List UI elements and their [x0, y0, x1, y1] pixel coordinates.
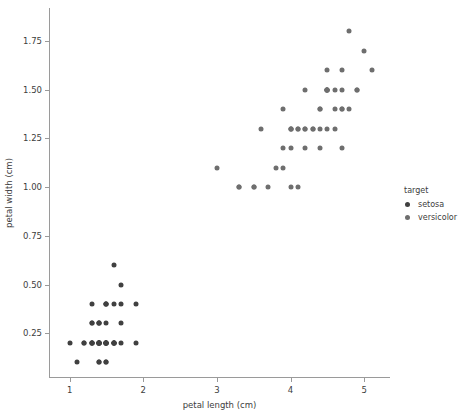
y-tick-label: 0.50: [23, 280, 42, 290]
x-tick-label: 5: [362, 385, 367, 395]
data-point-versicolor: [369, 68, 374, 73]
y-tick-label: 1.25: [23, 133, 42, 143]
x-tick-mark: [70, 378, 71, 382]
x-tick-mark: [217, 378, 218, 382]
legend-item-versicolor[interactable]: versicolor: [404, 212, 457, 223]
x-axis-spine: [49, 377, 390, 378]
x-tick-mark: [143, 378, 144, 382]
data-point-versicolor: [251, 185, 256, 190]
data-point-setosa: [74, 360, 79, 365]
y-tick-label: 0.75: [23, 231, 42, 241]
data-point-versicolor: [288, 126, 293, 131]
data-point-versicolor: [273, 165, 278, 170]
plot-area: 0.250.500.751.001.251.501.75 12345 petal…: [49, 8, 390, 378]
y-tick-mark: [45, 333, 49, 334]
y-tick-mark: [45, 41, 49, 42]
data-point-versicolor: [266, 185, 271, 190]
x-tick-label: 2: [141, 385, 146, 395]
y-tick-label: 0.25: [23, 328, 42, 338]
data-point-versicolor: [325, 126, 330, 131]
data-point-setosa: [104, 321, 109, 326]
data-point-setosa: [133, 340, 138, 345]
data-point-versicolor: [318, 146, 323, 151]
y-tick-label: 1.50: [23, 85, 42, 95]
data-point-setosa: [104, 302, 109, 307]
data-point-versicolor: [237, 185, 242, 190]
x-tick-label: 3: [214, 385, 219, 395]
data-point-versicolor: [318, 126, 323, 131]
legend-entries: setosaversicolor: [404, 199, 457, 223]
data-point-setosa: [89, 302, 94, 307]
y-tick-label: 1.75: [23, 36, 42, 46]
data-point-versicolor: [288, 185, 293, 190]
data-point-versicolor: [340, 146, 345, 151]
data-point-versicolor: [325, 87, 330, 92]
y-tick-label: 1.00: [23, 182, 42, 192]
legend-marker-icon: [405, 215, 410, 220]
y-tick-mark: [45, 285, 49, 286]
data-point-versicolor: [281, 146, 286, 151]
legend-item-setosa[interactable]: setosa: [404, 199, 457, 210]
data-point-versicolor: [303, 87, 308, 92]
data-point-versicolor: [310, 126, 315, 131]
data-point-versicolor: [303, 126, 308, 131]
data-point-versicolor: [347, 107, 352, 112]
data-point-setosa: [111, 302, 116, 307]
x-tick-label: 1: [67, 385, 72, 395]
data-point-versicolor: [281, 107, 286, 112]
data-point-versicolor: [354, 87, 359, 92]
data-point-versicolor: [295, 126, 300, 131]
data-point-setosa: [82, 340, 87, 345]
data-point-versicolor: [340, 87, 345, 92]
legend-title: target: [404, 186, 457, 195]
y-axis-label: petal width (cm): [4, 158, 14, 228]
data-point-setosa: [119, 282, 124, 287]
data-point-setosa: [89, 340, 94, 345]
data-point-setosa: [104, 340, 109, 345]
data-point-setosa: [119, 340, 124, 345]
x-tick-label: 4: [288, 385, 293, 395]
y-tick-mark: [45, 90, 49, 91]
data-point-setosa: [67, 340, 72, 345]
data-point-versicolor: [295, 185, 300, 190]
data-point-setosa: [111, 263, 116, 268]
data-point-setosa: [111, 340, 116, 345]
data-point-versicolor: [362, 48, 367, 53]
data-point-setosa: [104, 360, 109, 365]
data-point-setosa: [97, 360, 102, 365]
data-point-versicolor: [340, 107, 345, 112]
data-point-versicolor: [332, 87, 337, 92]
data-point-versicolor: [325, 68, 330, 73]
data-point-versicolor: [259, 126, 264, 131]
data-point-versicolor: [332, 107, 337, 112]
data-point-versicolor: [214, 165, 219, 170]
data-point-setosa: [133, 302, 138, 307]
data-point-setosa: [119, 321, 124, 326]
legend-marker-icon: [405, 202, 410, 207]
scatter-plot-figure: 0.250.500.751.001.251.501.75 12345 petal…: [0, 0, 461, 413]
y-tick-mark: [45, 138, 49, 139]
x-tick-mark: [364, 378, 365, 382]
y-tick-mark: [45, 236, 49, 237]
data-point-setosa: [97, 321, 102, 326]
legend-item-label: setosa: [418, 200, 444, 209]
data-point-setosa: [89, 321, 94, 326]
x-tick-mark: [291, 378, 292, 382]
legend: target setosaversicolor: [404, 186, 457, 225]
data-point-setosa: [97, 340, 102, 345]
data-point-versicolor: [281, 165, 286, 170]
data-point-versicolor: [340, 68, 345, 73]
y-axis-spine: [49, 8, 50, 378]
data-point-versicolor: [303, 146, 308, 151]
data-point-setosa: [119, 302, 124, 307]
data-point-versicolor: [288, 146, 293, 151]
y-tick-mark: [45, 187, 49, 188]
data-point-versicolor: [332, 126, 337, 131]
data-point-versicolor: [318, 107, 323, 112]
legend-item-label: versicolor: [418, 213, 457, 222]
x-axis-label: petal length (cm): [49, 400, 390, 410]
data-point-versicolor: [347, 29, 352, 34]
